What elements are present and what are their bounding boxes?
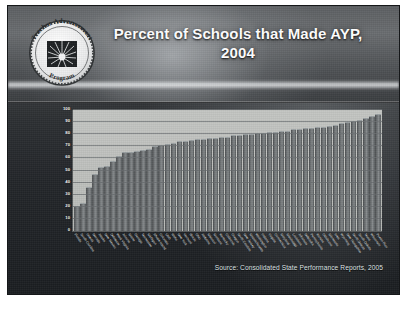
slide-title-line-2: 2004	[104, 43, 372, 62]
y-axis-tick-label: 90	[65, 119, 70, 123]
chart-bar	[357, 120, 362, 231]
y-axis-tick-label: 20	[65, 204, 70, 208]
x-axis-tick-label: Puerto Rico	[375, 233, 388, 249]
gridline: 50	[73, 170, 382, 171]
chart-bar	[219, 137, 224, 231]
chart-bar	[98, 167, 103, 231]
x-axis-label-slot: Puerto Rico	[375, 232, 381, 266]
ayp-bar-chart: 0102030405060708090100 FloridaSouth Caro…	[46, 110, 382, 250]
chart-bar	[327, 126, 332, 231]
gridline: 100	[73, 109, 382, 110]
sunburst-emblem	[47, 41, 77, 67]
chart-x-axis-labels: FloridaSouth CarolinaHawaiiNevadaAlaskaN…	[72, 232, 382, 266]
chart-bar	[339, 123, 344, 231]
gridline: 80	[73, 133, 382, 134]
gridline: 90	[73, 121, 382, 122]
chart-bar	[315, 127, 320, 231]
chart-bar	[321, 127, 326, 231]
y-axis-tick-label: 40	[65, 180, 70, 184]
chart-bar	[128, 152, 133, 231]
teacher-advancement-program-logo: Teacher Advancement Program	[22, 9, 102, 97]
chart-bar	[333, 125, 338, 231]
gridline: 40	[73, 182, 382, 183]
header-divider	[8, 101, 399, 103]
chart-bar	[375, 114, 380, 231]
gridline: 60	[73, 157, 382, 158]
chart-bar	[92, 174, 97, 231]
chart-bar	[345, 122, 350, 231]
presentation-slide: Teacher Advancement Program	[8, 6, 399, 294]
y-axis-tick-label: 70	[65, 143, 70, 147]
chart-plot-area: 0102030405060708090100	[72, 110, 382, 232]
chart-bar	[134, 151, 139, 231]
y-axis-tick-label: 0	[68, 228, 70, 232]
gridline: 20	[73, 206, 382, 207]
chart-bar	[351, 121, 356, 231]
chart-bar	[122, 152, 127, 231]
y-axis-tick-label: 10	[65, 216, 70, 220]
gridline: 70	[73, 145, 382, 146]
chart-bar	[225, 137, 230, 231]
y-axis-tick-label: 30	[65, 192, 70, 196]
chart-bar	[104, 166, 109, 231]
chart-bar	[363, 118, 368, 231]
source-note: Source: Consolidated State Performance R…	[215, 264, 383, 272]
chart-bar	[309, 128, 314, 231]
y-axis-tick-label: 100	[63, 107, 70, 111]
gridline: 0	[73, 230, 382, 231]
y-axis-tick-label: 50	[65, 167, 70, 171]
chart-bar	[231, 135, 236, 231]
chart-bar	[237, 135, 242, 231]
y-axis-tick-label: 80	[65, 131, 70, 135]
chart-bar	[303, 128, 308, 231]
slide-title: Percent of Schools that Made AYP, 2004	[104, 24, 372, 62]
y-axis-tick-label: 60	[65, 155, 70, 159]
chart-bars	[73, 110, 382, 231]
gridline: 10	[73, 218, 382, 219]
chart-bar	[110, 161, 115, 231]
gridline: 30	[73, 194, 382, 195]
slide-title-line-1: Percent of Schools that Made AYP,	[104, 24, 372, 43]
